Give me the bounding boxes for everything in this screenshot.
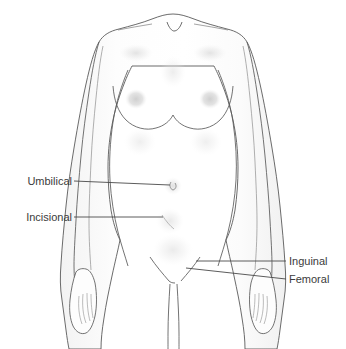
label-femoral: Femoral [289,273,329,285]
left-hand [250,269,277,334]
right-hand [70,269,97,334]
right-thigh-inner-line [168,284,170,349]
label-umbilical: Umbilical [8,175,72,187]
left-ribcage-shading [190,128,222,156]
left-areola [199,89,221,109]
label-inguinal: Inguinal [289,255,328,267]
pubic-shading [153,234,193,266]
label-incisional: Incisional [8,211,72,223]
navel-shading [164,177,182,195]
right-areola [125,89,147,109]
crotch-center-line [169,281,175,283]
sternum-shading [160,56,186,88]
hernia-location-diagram: Umbilical Incisional Inguinal Femoral [0,0,346,349]
right-ribcage-shading [124,128,156,156]
lower-abdomen-shading [156,208,184,234]
left-thigh-inner-line [177,284,179,349]
right-clavicle-shading [119,44,153,62]
left-clavicle-shading [193,44,227,62]
